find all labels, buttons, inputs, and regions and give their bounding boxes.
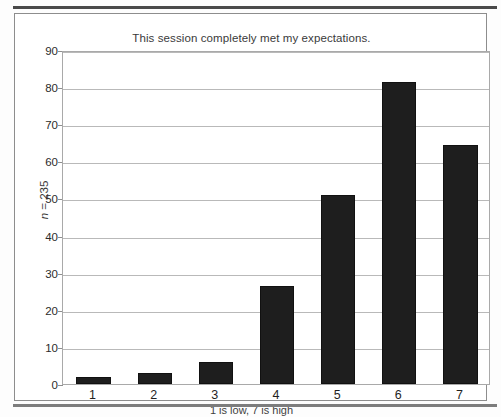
bar	[76, 377, 110, 384]
bar	[199, 362, 233, 384]
x-axis-tick-label: 3	[195, 388, 235, 402]
x-axis-tick-label: 5	[317, 388, 357, 402]
scanned-page: This session completely met my expectati…	[0, 0, 501, 417]
bar-series	[63, 52, 489, 384]
bar	[138, 373, 172, 384]
bar	[443, 145, 477, 384]
x-axis-tick-label: 4	[256, 388, 296, 402]
x-axis-tick-label: 2	[134, 388, 174, 402]
bar	[382, 82, 416, 384]
figure-frame: This session completely met my expectati…	[14, 13, 487, 401]
bar	[260, 286, 294, 384]
page-top-rule	[13, 6, 497, 9]
y-axis-tick-mark	[58, 385, 63, 386]
x-axis-tick-label: 7	[439, 388, 479, 402]
page-bottom-rule	[13, 404, 497, 407]
y-axis-ticks	[15, 51, 65, 385]
plot-area	[62, 51, 490, 385]
bar	[321, 195, 355, 384]
x-axis-tick-label: 1	[73, 388, 113, 402]
x-axis-tick-label: 6	[378, 388, 418, 402]
chart-title: This session completely met my expectati…	[15, 32, 488, 44]
